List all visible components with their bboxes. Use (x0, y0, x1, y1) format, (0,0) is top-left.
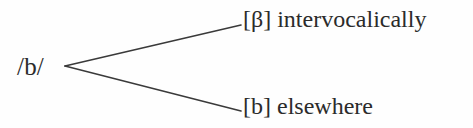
root-phoneme-label: /b/ (17, 54, 44, 79)
branching-diagram: /b/ [β] intervocalically [b] elsewhere (0, 0, 473, 128)
branch-label-lower: [b] elsewhere (243, 94, 373, 118)
branch-line-upper (65, 25, 241, 66)
branch-line-lower (65, 66, 241, 111)
branch-label-upper: [β] intervocalically (243, 7, 426, 31)
